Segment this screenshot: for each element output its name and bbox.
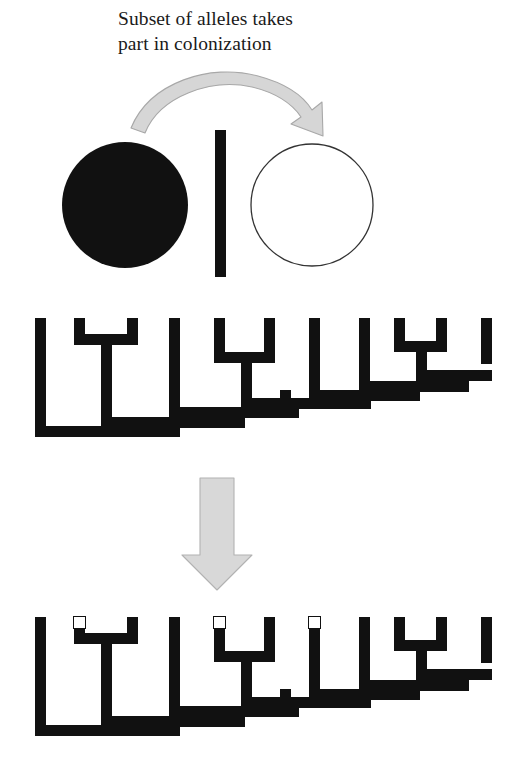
figure-canvas: Subset of alleles takes part in coloniza… <box>0 0 529 773</box>
empty-allele-marker <box>309 617 321 629</box>
founder-tree-panel <box>0 0 529 773</box>
empty-allele-marker <box>214 617 226 629</box>
founder-cladogram <box>0 0 529 773</box>
founder-tree-branches <box>35 617 492 736</box>
empty-allele-marker <box>74 617 86 629</box>
empty-allele-markers <box>74 617 321 629</box>
